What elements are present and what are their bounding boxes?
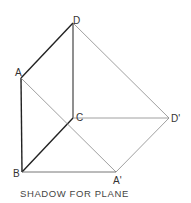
- edge-a-b: [21, 78, 22, 172]
- label-a: A: [15, 67, 22, 78]
- edge-b-c: [22, 118, 73, 172]
- label-a-prime: A': [113, 175, 122, 186]
- label-c: C: [76, 112, 83, 123]
- edge-a-d: [21, 23, 73, 78]
- label-d-prime: D': [171, 113, 180, 124]
- caption: SHADOW FOR PLANE: [20, 188, 129, 199]
- label-b: B: [13, 168, 20, 179]
- label-d: D: [73, 15, 80, 26]
- ray-d-dprime: [73, 23, 169, 118]
- shadow-diagram: D A B C D' A' SHADOW FOR PLANE: [0, 0, 191, 203]
- shadow-dprime-aprime: [116, 118, 169, 172]
